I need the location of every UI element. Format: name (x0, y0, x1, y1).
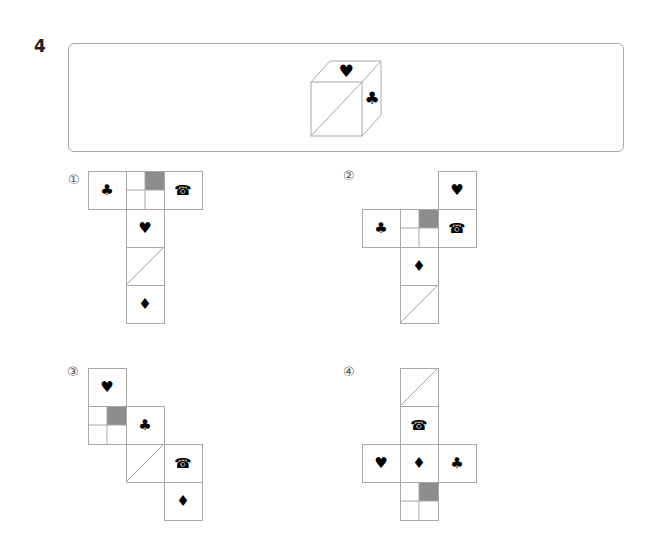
option-1-net[interactable]: ♣☎♥♦ (89, 171, 203, 324)
option-4-net[interactable]: ☎♥♦♣ (363, 368, 477, 521)
diagonal-line (126, 444, 164, 482)
heart-icon: ♥ (100, 378, 113, 396)
shaded-quadrant (419, 482, 438, 501)
shaded-quadrant (107, 406, 126, 425)
club-icon: ♣ (100, 181, 113, 199)
club-icon: ♣ (374, 219, 387, 237)
option-2-net[interactable]: ♥♣☎♦ (363, 172, 477, 324)
net-face: ♥ (89, 369, 127, 407)
option-3-net[interactable]: ♥♣☎♦ (88, 369, 203, 521)
diagonal-line (126, 247, 164, 285)
shaded-quadrant (145, 171, 164, 190)
heart-icon: ♥ (138, 219, 151, 237)
net-face: ♣ (127, 407, 165, 445)
heart-icon: ♥ (450, 181, 463, 199)
telephone-icon: ☎ (174, 455, 191, 471)
cube-nets: ♣☎♥♦♥♣☎♦♥♣☎♦☎♥♦♣ (0, 0, 658, 551)
net-face (88, 406, 127, 445)
diagonal-line (400, 368, 438, 406)
net-face (126, 444, 165, 483)
shaded-quadrant (419, 209, 438, 228)
diamond-icon: ♦ (138, 295, 151, 313)
net-face: ♥ (363, 445, 401, 483)
diamond-icon: ♦ (412, 257, 425, 275)
net-face: ♦ (401, 248, 439, 286)
net-face (400, 368, 439, 407)
heart-icon: ♥ (374, 454, 387, 472)
face-border (127, 248, 165, 286)
net-face (400, 482, 439, 521)
club-icon: ♣ (138, 416, 151, 434)
face-border (401, 286, 439, 324)
net-face: ☎ (439, 210, 477, 248)
telephone-icon: ☎ (410, 417, 427, 433)
diamond-icon: ♦ (176, 492, 189, 510)
net-face: ♦ (127, 286, 165, 324)
net-face: ♣ (439, 445, 477, 483)
net-face: ☎ (165, 445, 203, 483)
net-face (126, 247, 165, 286)
net-face (126, 171, 165, 210)
net-face: ♥ (439, 172, 477, 210)
diamond-icon: ♦ (412, 454, 425, 472)
net-face: ♥ (127, 210, 165, 248)
net-face: ♦ (165, 483, 203, 521)
net-face: ☎ (165, 172, 203, 210)
net-face (400, 209, 439, 248)
net-face: ♣ (89, 172, 127, 210)
net-face: ♦ (401, 445, 439, 483)
face-border (127, 445, 165, 483)
net-face (400, 285, 439, 324)
club-icon: ♣ (450, 454, 463, 472)
telephone-icon: ☎ (174, 182, 191, 198)
face-border (401, 369, 439, 407)
telephone-icon: ☎ (448, 220, 465, 236)
net-face: ♣ (363, 210, 401, 248)
diagonal-line (400, 285, 438, 323)
net-face: ☎ (401, 407, 439, 445)
